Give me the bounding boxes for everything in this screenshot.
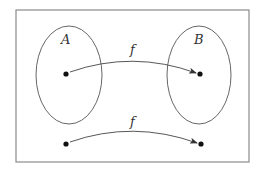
point-q-dot <box>198 141 203 146</box>
set-b-label: B <box>193 32 204 47</box>
arrow-top-label: f <box>129 42 137 57</box>
point-a-dot <box>63 71 68 76</box>
mapping-arrow-bottom <box>70 131 197 143</box>
function-diagram: A B f f <box>0 0 262 171</box>
point-b-dot <box>197 71 202 76</box>
frame-border <box>16 10 249 162</box>
set-a-label: A <box>60 32 70 47</box>
mapping-arrow-top <box>70 61 196 73</box>
point-p-dot <box>63 141 68 146</box>
arrow-bottom-label: f <box>129 114 137 129</box>
